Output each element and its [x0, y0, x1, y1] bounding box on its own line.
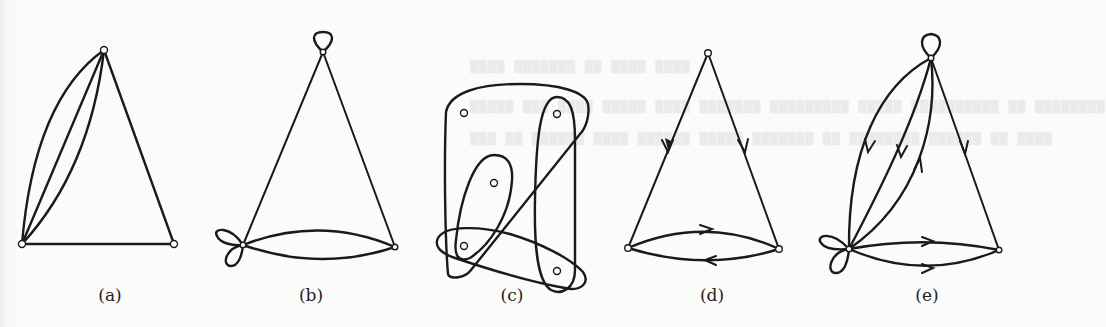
- panel-label-a: (a): [80, 285, 140, 305]
- vertex: [846, 246, 852, 252]
- vertex: [461, 110, 468, 117]
- vertex: [928, 55, 934, 61]
- loop: [226, 245, 243, 266]
- vertex: [320, 49, 326, 55]
- panel-label-e: (e): [897, 285, 957, 305]
- vertex: [240, 242, 246, 248]
- vertex: [101, 47, 108, 54]
- vertex: [392, 244, 398, 250]
- vertex: [461, 243, 468, 250]
- panel-b-graph: [216, 32, 398, 266]
- panel-e-digraph: [820, 34, 1002, 273]
- loop: [216, 230, 243, 245]
- hyperedge: [437, 228, 586, 289]
- loop: [820, 236, 849, 250]
- panel-d-digraph: [625, 50, 783, 265]
- panel-label-b: (b): [281, 285, 341, 305]
- vertex: [776, 246, 783, 253]
- vertex: [171, 241, 178, 248]
- panel-c-hypergraph: [437, 84, 589, 292]
- vertex: [705, 50, 712, 57]
- panel-a-graph: [19, 47, 178, 248]
- vertex: [554, 268, 561, 275]
- vertex: [625, 245, 632, 252]
- vertex: [996, 247, 1002, 253]
- vertex: [491, 180, 498, 187]
- vertex: [554, 111, 561, 118]
- panel-label-d: (d): [682, 285, 742, 305]
- loop: [830, 249, 849, 273]
- panel-label-c: (c): [482, 285, 542, 305]
- hyperedge: [535, 97, 575, 292]
- loop: [922, 34, 940, 58]
- vertex: [19, 241, 26, 248]
